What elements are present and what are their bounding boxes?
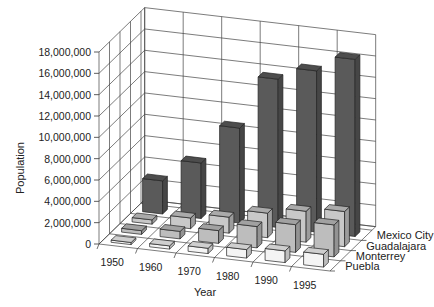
bar-puebla-1995: [304, 247, 329, 267]
bar-side-face: [296, 220, 301, 252]
y-tick-label: 16,000,000: [38, 67, 91, 79]
bar-side-face: [278, 75, 283, 228]
bar-front-face: [143, 179, 163, 214]
x-tick-label: 1960: [139, 261, 163, 273]
x-tick: [290, 267, 292, 272]
y-tick-label: 12,000,000: [38, 110, 91, 122]
bar-puebla-1990: [265, 244, 290, 263]
bar-monterrey-1950: [122, 224, 147, 235]
x-tick: [251, 262, 253, 267]
left-wall-gridline: [99, 50, 145, 94]
bar-side-face: [317, 66, 322, 232]
bar-mexico-city-1970: [220, 121, 245, 223]
x-tick-label: 1990: [255, 274, 279, 286]
x-tick: [213, 258, 215, 263]
x-tick: [174, 253, 176, 258]
x-tick-label: 1980: [216, 270, 240, 282]
y-tick-label: 14,000,000: [38, 89, 91, 101]
y-tick-label: 6,000,000: [44, 174, 91, 186]
chart-bars: [111, 53, 360, 268]
left-wall-gridline: [99, 114, 145, 158]
x-tick-label: 1950: [101, 256, 125, 268]
bar-puebla-1960: [150, 239, 175, 249]
bar-mexico-city-1960: [181, 156, 206, 218]
series-label: Puebla: [345, 260, 380, 272]
bar-monterrey-1970: [199, 224, 224, 244]
bar-side-face: [345, 207, 350, 247]
left-wall-gridline: [99, 136, 145, 180]
y-tick-label: 8,000,000: [44, 153, 91, 165]
x-tick: [97, 244, 99, 249]
bar-puebla-1970: [188, 241, 213, 253]
population-3d-bar-chart: 02,000,0004,000,0006,000,0008,000,00010,…: [0, 0, 434, 307]
left-wall-gridline: [99, 157, 145, 201]
bar-front-face: [258, 77, 278, 228]
bar-side-face: [201, 159, 206, 219]
bar-side-face: [334, 220, 339, 257]
left-wall-gridline: [99, 72, 145, 116]
bar-guadalajara-1950: [132, 213, 157, 224]
y-tick-label: 0: [85, 238, 91, 250]
left-wall-gridline: [99, 93, 145, 137]
bar-puebla-1950: [111, 236, 136, 245]
bar-side-face: [240, 124, 245, 224]
bar-front-face: [181, 161, 201, 219]
x-tick: [136, 249, 138, 254]
bar-mexico-city-1980: [258, 72, 283, 227]
left-wall-gridline: [99, 8, 145, 52]
y-tick-label: 4,000,000: [44, 195, 91, 207]
bar-side-face: [355, 55, 360, 237]
y-axis-title: Population: [14, 142, 26, 194]
x-tick-label: 1970: [178, 265, 202, 277]
x-tick-label: 1995: [293, 279, 317, 291]
bar-front-face: [220, 126, 240, 223]
left-wall-gridline: [99, 29, 145, 73]
y-tick-label: 18,000,000: [38, 46, 91, 58]
y-tick-label: 10,000,000: [38, 131, 91, 143]
bar-mexico-city-1950: [143, 174, 168, 214]
bar-monterrey-1960: [160, 225, 185, 239]
y-tick-label: 2,000,000: [44, 217, 91, 229]
bar-puebla-1980: [227, 243, 252, 258]
x-axis-title: Year: [194, 286, 217, 298]
bar-side-face: [306, 207, 311, 243]
bar-side-face: [163, 176, 168, 214]
